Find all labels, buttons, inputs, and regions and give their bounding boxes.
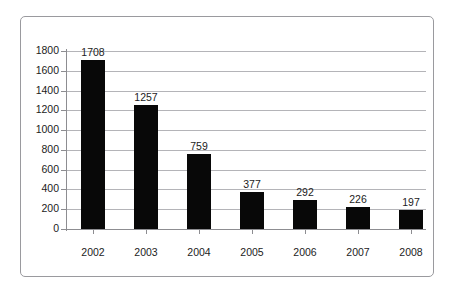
- x-axis-tick: [146, 229, 147, 234]
- y-axis-tick: [61, 110, 66, 111]
- x-axis-tick: [252, 229, 253, 234]
- y-axis-label: 1000: [15, 124, 59, 135]
- bar: [240, 192, 264, 229]
- y-axis-line: [66, 49, 67, 231]
- x-axis-label: 2007: [332, 246, 384, 258]
- bar-value-label: 226: [335, 194, 381, 205]
- x-axis-label: 2003: [120, 246, 172, 258]
- y-axis-label: 1200: [15, 104, 59, 115]
- bar-value-label: 197: [388, 197, 434, 208]
- x-axis-tick: [305, 229, 306, 234]
- bar: [134, 105, 158, 229]
- y-axis-label: 1800: [15, 45, 59, 56]
- bar-value-label: 759: [176, 141, 222, 152]
- x-axis-label: 2005: [226, 246, 278, 258]
- plot-area: 17081257759377292226197: [66, 51, 426, 229]
- gridline: [66, 110, 426, 111]
- y-axis-tick: [61, 71, 66, 72]
- x-axis-tick: [93, 229, 94, 234]
- y-axis-label: 400: [15, 183, 59, 194]
- bar-value-label: 1257: [123, 92, 169, 103]
- bar: [81, 60, 105, 229]
- chart-frame: 17081257759377292226197 0200400600800100…: [20, 16, 434, 277]
- axis-baseline: [66, 229, 426, 230]
- y-axis-tick: [61, 91, 66, 92]
- y-axis-label: 1600: [15, 65, 59, 76]
- y-axis-label: 600: [15, 164, 59, 175]
- y-axis-tick: [61, 150, 66, 151]
- bar-value-label: 377: [229, 179, 275, 190]
- y-axis-tick: [61, 170, 66, 171]
- y-axis-label: 1400: [15, 85, 59, 96]
- bar: [346, 207, 370, 229]
- x-axis-label: 2002: [67, 246, 119, 258]
- y-axis-tick: [61, 130, 66, 131]
- y-axis-tick: [61, 189, 66, 190]
- bar: [293, 200, 317, 229]
- bar-value-label: 292: [282, 187, 328, 198]
- x-axis-tick: [358, 229, 359, 234]
- bar-chart-figure: 17081257759377292226197 0200400600800100…: [0, 0, 456, 294]
- y-axis-tick: [61, 229, 66, 230]
- bar-value-label: 1708: [70, 47, 116, 58]
- gridline: [66, 51, 426, 52]
- y-axis-label: 0: [15, 223, 59, 234]
- y-axis-tick: [61, 51, 66, 52]
- x-axis-tick: [411, 229, 412, 234]
- y-axis-label: 800: [15, 144, 59, 155]
- x-axis-tick: [199, 229, 200, 234]
- x-axis-label: 2004: [173, 246, 225, 258]
- y-axis-tick: [61, 209, 66, 210]
- gridline: [66, 91, 426, 92]
- gridline: [66, 71, 426, 72]
- y-axis-label: 200: [15, 203, 59, 214]
- x-axis-label: 2006: [279, 246, 331, 258]
- bar: [399, 210, 423, 229]
- bar: [187, 154, 211, 229]
- x-axis-label: 2008: [385, 246, 437, 258]
- gridline: [66, 170, 426, 171]
- gridline: [66, 150, 426, 151]
- gridline: [66, 130, 426, 131]
